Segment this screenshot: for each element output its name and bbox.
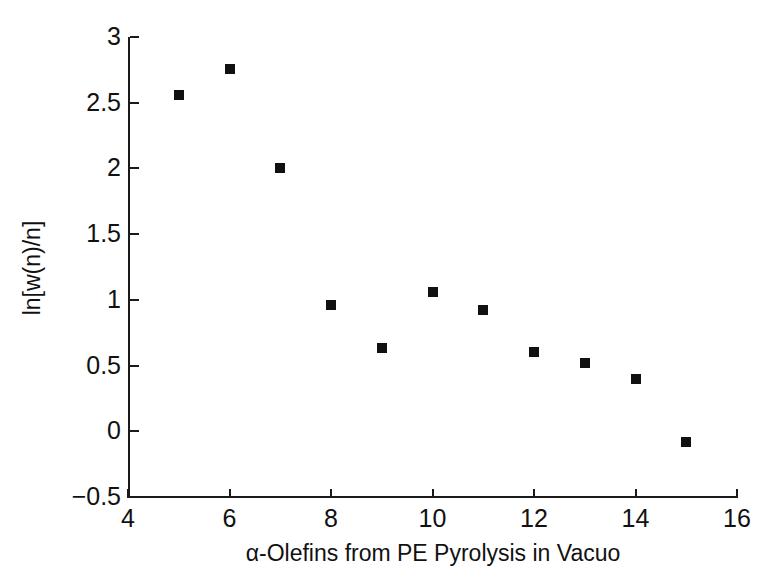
x-tick-label: 12 bbox=[504, 505, 564, 532]
y-tick-label: 2 bbox=[107, 155, 121, 180]
y-axis-title: ln[w(n)/n] bbox=[19, 158, 45, 378]
y-tick-label: 1.5 bbox=[86, 221, 121, 246]
plot-area bbox=[128, 37, 737, 497]
data-point bbox=[681, 437, 691, 447]
x-tick-label: 4 bbox=[98, 505, 158, 532]
data-point bbox=[326, 300, 336, 310]
x-tick-label: 10 bbox=[403, 505, 463, 532]
x-tick-label: 6 bbox=[200, 505, 260, 532]
y-tick-label: 0.5 bbox=[86, 353, 121, 378]
y-tick-label: 3 bbox=[107, 24, 121, 49]
x-axis-title: α-Olefins from PE Pyrolysis in Vacuo bbox=[128, 540, 738, 566]
y-tick-label: 0 bbox=[107, 418, 121, 443]
data-point bbox=[174, 90, 184, 100]
scatter-chart-figure: −0.500.511.522.53 46810121416 α-Olefins … bbox=[0, 0, 775, 585]
x-tick-label: 8 bbox=[301, 505, 361, 532]
data-point bbox=[428, 287, 438, 297]
data-point bbox=[478, 305, 488, 315]
data-point bbox=[377, 343, 387, 353]
x-tick-label: 14 bbox=[606, 505, 666, 532]
y-axis-tick-labels: −0.500.511.522.53 bbox=[36, 0, 121, 585]
y-tick-label: 2.5 bbox=[86, 90, 121, 115]
data-point bbox=[225, 64, 235, 74]
data-point bbox=[275, 163, 285, 173]
x-tick-label: 16 bbox=[707, 505, 767, 532]
data-point bbox=[580, 358, 590, 368]
y-tick-label: 1 bbox=[107, 287, 121, 312]
data-point bbox=[529, 347, 539, 357]
data-point bbox=[631, 374, 641, 384]
